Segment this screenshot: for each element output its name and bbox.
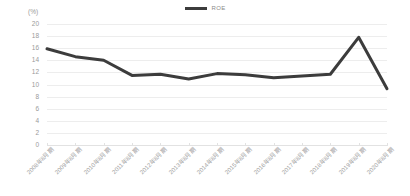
y-axis-unit-label: (%): [28, 9, 38, 16]
plot-area: [47, 24, 387, 145]
x-axis-labels: 2008年8月期2009年8月期2010年8月期2011年8月期2012年8月期…: [47, 146, 387, 196]
x-axis-tick: [387, 143, 388, 146]
x-axis-tick: [359, 143, 360, 146]
y-axis-tick-label: 18: [32, 33, 39, 40]
x-axis-tick-label: 2009年8月期: [54, 146, 83, 175]
legend-label-roe: ROE: [212, 5, 226, 11]
y-axis-tick-label: 20: [32, 21, 39, 28]
roe-line-chart: ROE (%) 20181614121086420 2008年8月期2009年8…: [0, 0, 410, 196]
legend-swatch-roe: [185, 7, 207, 10]
y-axis-tick-label: 2: [35, 130, 39, 137]
x-axis-tick: [217, 143, 218, 146]
x-axis-tick: [330, 143, 331, 146]
x-axis-tick: [75, 143, 76, 146]
x-axis-tick-label: 2020年8月期: [366, 146, 395, 175]
y-axis-tick-label: 4: [35, 118, 39, 125]
x-axis-tick-label: 2014年8月期: [196, 146, 225, 175]
y-axis-tick-label: 12: [32, 69, 39, 76]
x-axis-tick: [132, 143, 133, 146]
x-axis-tick-label: 2013年8月期: [167, 146, 196, 175]
x-axis-tick: [160, 143, 161, 146]
series-line-roe: [47, 37, 387, 88]
y-axis-tick-label: 16: [32, 45, 39, 52]
chart-legend: ROE: [0, 2, 410, 14]
y-axis-tick-label: 8: [35, 93, 39, 100]
x-axis-tick-label: 2012年8月期: [139, 146, 168, 175]
x-axis-tick-label: 2008年8月期: [26, 146, 55, 175]
series-layer: [47, 24, 387, 145]
x-axis-tick-label: 2010年8月期: [82, 146, 111, 175]
x-axis-tick-label: 2018年8月期: [309, 146, 338, 175]
x-axis-tick: [302, 143, 303, 146]
x-axis-tick: [189, 143, 190, 146]
y-axis-tick-label: 10: [32, 81, 39, 88]
x-axis-tick: [245, 143, 246, 146]
y-axis-tick-label: 14: [32, 57, 39, 64]
y-axis-tick-label: 6: [35, 105, 39, 112]
y-axis-labels: 20181614121086420: [0, 24, 44, 145]
x-axis-tick-label: 2016年8月期: [252, 146, 281, 175]
x-axis-tick-label: 2011年8月期: [111, 146, 140, 175]
x-axis-tick-label: 2017年8月期: [281, 146, 310, 175]
x-axis-tick-label: 2019年8月期: [337, 146, 366, 175]
x-axis-tick-label: 2015年8月期: [224, 146, 253, 175]
y-axis-tick-label: 0: [35, 142, 39, 149]
x-axis-tick: [47, 143, 48, 146]
x-axis-tick: [104, 143, 105, 146]
x-axis-tick: [274, 143, 275, 146]
